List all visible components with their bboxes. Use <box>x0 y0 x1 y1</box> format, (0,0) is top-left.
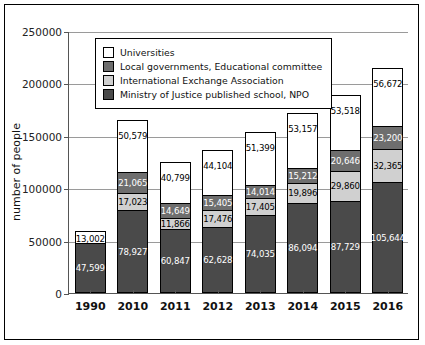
legend-item-label: Ministry of Justice published school, NP… <box>120 89 309 100</box>
y-axis-tick-label: 250000 <box>22 26 62 38</box>
x-axis-label-2015: 2015 <box>330 300 361 313</box>
bar-value-label: 56,672 <box>373 79 402 89</box>
bar-2010[interactable]: 78,92717,02321,06550,579 <box>117 121 148 293</box>
x-axis-tick <box>345 290 346 294</box>
x-axis-tick <box>303 290 304 294</box>
bar-segment[interactable]: 17,476 <box>202 210 233 228</box>
y-axis-tick <box>64 189 69 190</box>
bar-2012[interactable]: 62,62817,47615,40544,104 <box>202 151 233 293</box>
x-axis-label-2011: 2011 <box>160 300 191 313</box>
bar-segment[interactable]: 86,094 <box>287 203 318 293</box>
x-axis-tick <box>388 290 389 294</box>
bar-2014[interactable]: 86,09419,89615,21253,157 <box>287 114 318 293</box>
bar-segment[interactable]: 78,927 <box>117 210 148 293</box>
bar-segment[interactable]: 21,065 <box>117 172 148 194</box>
bar-value-label: 60,847 <box>161 256 190 266</box>
y-axis-tick <box>64 294 69 295</box>
chart-frame: number of people 05000010000015000020000… <box>4 4 419 340</box>
y-axis-tick <box>64 32 69 33</box>
legend-item-label: Local governments, Educational committee <box>120 61 322 72</box>
bar-value-label: 15,405 <box>203 198 232 208</box>
bar-segment[interactable]: 56,672 <box>372 68 403 127</box>
bar-value-label: 62,628 <box>203 255 232 265</box>
bar-segment[interactable]: 47,599 <box>75 243 106 293</box>
y-axis-tick <box>64 84 69 85</box>
bar-segment[interactable]: 20,646 <box>330 150 361 172</box>
legend-item-label: International Exchange Association <box>120 75 284 86</box>
bar-value-label: 50,579 <box>118 131 147 141</box>
y-axis-tick <box>64 242 69 243</box>
bar-value-label: 86,094 <box>288 243 317 253</box>
x-axis-tick <box>90 290 91 294</box>
y-axis-tick-label: 200000 <box>22 78 62 90</box>
bar-value-label: 51,399 <box>246 143 275 153</box>
x-axis-label-1990: 1990 <box>75 300 106 313</box>
x-axis-tick <box>133 290 134 294</box>
bar-segment[interactable]: 11,866 <box>160 218 191 230</box>
y-axis-tick-label: 0 <box>55 288 62 300</box>
bar-segment[interactable]: 13,002 <box>75 231 106 245</box>
bar-2013[interactable]: 74,03517,40514,01451,399 <box>245 133 276 293</box>
bar-segment[interactable]: 74,035 <box>245 215 276 293</box>
bar-segment[interactable]: 62,628 <box>202 227 233 293</box>
bar-value-label: 11,866 <box>161 219 190 229</box>
gridline <box>69 32 408 33</box>
x-axis-label-2010: 2010 <box>117 300 148 313</box>
bar-1990[interactable]: 47,59913,002 <box>75 232 106 294</box>
legend: UniversitiesLocal governments, Education… <box>95 38 332 109</box>
legend-item-label: Universities <box>120 47 175 58</box>
x-axis-tick <box>218 290 219 294</box>
bar-value-label: 15,212 <box>288 171 317 181</box>
bar-segment[interactable]: 15,212 <box>287 168 318 184</box>
x-axis-label-2014: 2014 <box>287 300 318 313</box>
y-axis-tick-label: 50000 <box>29 236 62 248</box>
legend-item[interactable]: Local governments, Educational committee <box>103 61 322 72</box>
x-axis-label-2013: 2013 <box>245 300 276 313</box>
bar-segment[interactable]: 29,860 <box>330 171 361 202</box>
bar-segment[interactable]: 53,157 <box>287 113 318 169</box>
bar-segment[interactable]: 14,649 <box>160 203 191 218</box>
bar-segment[interactable]: 40,799 <box>160 162 191 205</box>
bar-value-label: 74,035 <box>246 249 275 259</box>
bar-value-label: 17,476 <box>203 214 232 224</box>
legend-item[interactable]: International Exchange Association <box>103 75 322 86</box>
x-axis-tick <box>175 290 176 294</box>
bar-value-label: 47,599 <box>76 263 105 273</box>
bar-value-label: 53,518 <box>331 106 360 116</box>
x-axis-tick <box>260 290 261 294</box>
bar-segment[interactable]: 51,399 <box>245 132 276 186</box>
y-axis-tick <box>64 137 69 138</box>
bar-segment[interactable]: 44,104 <box>202 150 233 196</box>
bar-segment[interactable]: 53,518 <box>330 95 361 151</box>
legend-item[interactable]: Universities <box>103 47 322 58</box>
bar-value-label: 23,200 <box>373 133 402 143</box>
bar-segment[interactable]: 32,365 <box>372 149 403 183</box>
x-axis-label-2012: 2012 <box>202 300 233 313</box>
bar-segment[interactable]: 17,023 <box>117 193 148 211</box>
bar-segment[interactable]: 17,405 <box>245 198 276 216</box>
y-axis-tick-label: 150000 <box>22 131 62 143</box>
bar-segment[interactable]: 23,200 <box>372 126 403 150</box>
bar-value-label: 21,065 <box>118 178 147 188</box>
y-axis-title: number of people <box>10 123 23 221</box>
bar-segment[interactable]: 15,405 <box>202 195 233 211</box>
bar-value-label: 29,860 <box>331 181 360 191</box>
bar-segment[interactable]: 50,579 <box>117 120 148 173</box>
bar-segment[interactable]: 105,644 <box>372 182 403 293</box>
bar-segment[interactable]: 14,014 <box>245 185 276 200</box>
bar-value-label: 87,729 <box>331 242 360 252</box>
bar-2016[interactable]: 105,64432,36523,20056,672 <box>372 69 403 293</box>
bar-segment[interactable]: 60,847 <box>160 229 191 293</box>
bar-segment[interactable]: 87,729 <box>330 201 361 293</box>
bar-value-label: 40,799 <box>161 173 190 183</box>
bar-2011[interactable]: 60,84711,86614,64940,799 <box>160 163 191 293</box>
bar-value-label: 78,927 <box>118 247 147 257</box>
bar-value-label: 17,023 <box>118 197 147 207</box>
legend-item[interactable]: Ministry of Justice published school, NP… <box>103 89 322 100</box>
bar-value-label: 32,365 <box>373 161 402 171</box>
x-axis-label-2016: 2016 <box>372 300 403 313</box>
bar-value-label: 13,002 <box>76 234 105 244</box>
bar-segment[interactable]: 19,896 <box>287 183 318 204</box>
bar-value-label: 19,896 <box>288 188 317 198</box>
bar-2015[interactable]: 87,72929,86020,64653,518 <box>330 96 361 293</box>
